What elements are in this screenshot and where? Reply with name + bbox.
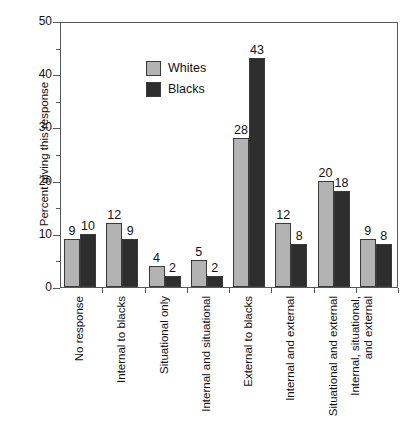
- x-category-label-text: No response: [73, 296, 86, 432]
- bar-blacks: [80, 234, 96, 287]
- plot-area: 91012942522843128201898 Whites Blacks: [60, 22, 398, 288]
- x-tick-mark: [229, 288, 230, 293]
- legend-label-blacks: Blacks: [168, 83, 205, 96]
- bar-whites: [64, 239, 80, 287]
- bar-whites: [233, 138, 249, 287]
- y-tick-label: 30: [12, 121, 52, 133]
- chart-legend: Whites Blacks: [146, 61, 206, 103]
- bar-blacks: [376, 244, 392, 287]
- y-tick-label: 0: [12, 281, 52, 293]
- x-tick-mark: [314, 288, 315, 293]
- legend-swatch-blacks: [146, 82, 161, 97]
- bar-value-whites: 12: [269, 209, 297, 221]
- x-tick-mark: [145, 288, 146, 293]
- y-tick-mark: [53, 182, 60, 183]
- y-tick-mark: [53, 128, 60, 129]
- bar-value-blacks: 8: [370, 230, 398, 242]
- bar-value-blacks: 18: [328, 177, 356, 189]
- x-category-label-text: Situational and external: [327, 296, 340, 432]
- x-category-label-text: Situational only: [158, 296, 171, 432]
- bar-value-blacks: 10: [74, 220, 102, 232]
- y-tick-mark: [53, 288, 60, 289]
- legend-item-blacks: Blacks: [146, 82, 206, 97]
- legend-label-whites: Whites: [168, 62, 206, 75]
- y-axis-title: Percent giving this response: [38, 24, 50, 284]
- bar-blacks: [165, 276, 181, 287]
- x-tick-mark: [356, 288, 357, 293]
- x-category-label-text: Internal and situational: [200, 296, 213, 432]
- y-tick-label: 40: [12, 68, 52, 80]
- bar-value-whites: 12: [100, 209, 128, 221]
- x-category-label-text: Internal and external: [284, 296, 297, 432]
- y-tick-label: 50: [12, 15, 52, 27]
- bar-blacks: [249, 58, 265, 287]
- bar-value-whites: 28: [227, 124, 255, 136]
- bar-value-blacks: 8: [285, 230, 313, 242]
- bar-blacks: [291, 244, 307, 287]
- y-tick-mark: [53, 75, 60, 76]
- x-category-label-text: Internal to blacks: [115, 296, 128, 432]
- x-tick-mark: [102, 288, 103, 293]
- legend-item-whites: Whites: [146, 61, 206, 76]
- bar-chart-figure: Percent giving this response 01020304050…: [0, 0, 416, 434]
- x-category-label-text: External to blacks: [242, 296, 255, 432]
- y-tick-mark: [53, 22, 60, 23]
- bar-value-blacks: 9: [116, 225, 144, 237]
- x-tick-mark: [398, 288, 399, 293]
- bar-blacks: [207, 276, 223, 287]
- bar-value-blacks: 2: [201, 262, 229, 274]
- x-category-label-text: Internal, situational,and external: [349, 296, 374, 432]
- bar-value-blacks: 2: [159, 262, 187, 274]
- bar-whites: [318, 181, 334, 287]
- bar-blacks: [122, 239, 138, 287]
- x-tick-mark: [187, 288, 188, 293]
- y-tick-label: 10: [12, 228, 52, 240]
- y-tick-label: 20: [12, 175, 52, 187]
- legend-swatch-whites: [146, 61, 161, 76]
- bar-value-whites: 5: [185, 246, 213, 258]
- bar-blacks: [334, 191, 350, 287]
- bar-whites: [360, 239, 376, 287]
- x-tick-mark: [271, 288, 272, 293]
- bar-value-blacks: 43: [243, 44, 271, 56]
